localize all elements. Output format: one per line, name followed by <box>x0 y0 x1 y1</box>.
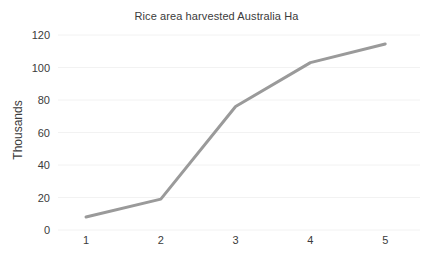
y-axis-tick-label: 0 <box>16 224 50 236</box>
plot-area <box>0 0 433 259</box>
gridlines <box>58 35 420 230</box>
data-series-line <box>86 44 385 217</box>
y-axis-tick-label: 100 <box>16 62 50 74</box>
y-axis-tick-label: 60 <box>16 127 50 139</box>
x-axis-tick-label: 2 <box>146 234 176 246</box>
x-axis-tick-label: 5 <box>370 234 400 246</box>
x-axis-tick-label: 3 <box>221 234 251 246</box>
y-axis-tick-label: 80 <box>16 94 50 106</box>
y-axis-tick-label: 20 <box>16 192 50 204</box>
y-axis-tick-label: 40 <box>16 159 50 171</box>
x-axis-tick-label: 4 <box>295 234 325 246</box>
y-axis-tick-label: 120 <box>16 29 50 41</box>
chart-container: Rice area harvested Australia Ha Thousan… <box>0 0 433 259</box>
x-axis-tick-label: 1 <box>71 234 101 246</box>
